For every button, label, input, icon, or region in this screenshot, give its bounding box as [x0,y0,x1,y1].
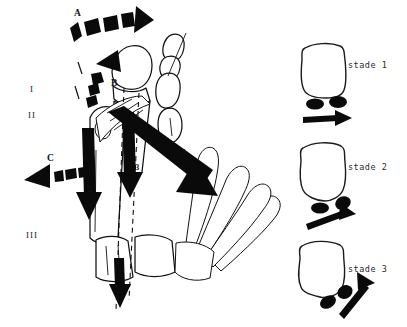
stage-2-label: stade 2 [348,162,387,172]
stage-1-sesamoid-right [329,96,347,108]
stage-3-label: stade 3 [348,264,387,274]
stage-1-arrow [303,110,352,126]
stage-1-bone-outline [301,44,346,98]
roman-numeral-ii: II [28,110,36,120]
roman-numeral-iii: III [26,230,38,240]
tick-mark-lower [75,86,79,99]
hand-anatomy-group: A B C 1 [24,6,280,310]
stage-1-sesamoid-left [306,99,324,110]
force-arrow-b-label: B [111,78,118,88]
force-arrow-c-label: C [47,153,54,163]
stage-2-group: stade 2 [300,143,387,230]
stage-2-sesamoid-left [311,203,329,214]
force-arrow-a-label: A [74,8,81,18]
index-phalanx-chain [156,34,184,143]
roman-numeral-i: I [30,84,34,94]
stage-3-bone-outline [299,241,345,297]
stage-1-label: stade 1 [348,60,387,70]
anatomical-figure-svg: A B C 1 [0,0,407,327]
vector-arrow-2-label: 2 [88,184,92,194]
figure-canvas: A B C 1 [0,0,407,327]
force-arrow-c [24,164,91,188]
stage-3-group: stade 3 [299,241,388,319]
vector-arrow-3-label: 3 [135,162,139,172]
vector-arrow-1-label: 1 [182,147,186,157]
stage-2-bone-outline [300,143,345,201]
force-arrow-a [70,6,154,42]
stage-1-group: stade 1 [301,44,387,126]
tick-mark-upper [78,62,82,74]
